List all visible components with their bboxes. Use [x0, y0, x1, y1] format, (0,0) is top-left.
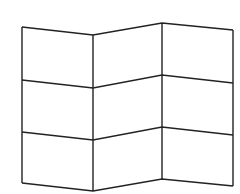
map-row-line-1-edge [22, 75, 233, 88]
map-row-line-2-edge [22, 127, 233, 140]
folded-map-icon [0, 0, 240, 194]
map-bottom-edge [22, 179, 233, 191]
folded-map-drawing [0, 0, 240, 194]
map-top-edge [22, 23, 233, 35]
